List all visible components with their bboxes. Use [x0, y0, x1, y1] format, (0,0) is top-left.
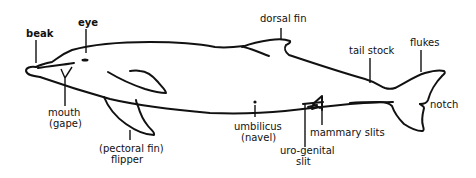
label-flukes: flukes — [410, 37, 439, 48]
label-uro-genital: uro-genital — [280, 145, 335, 156]
label-dorsal-fin: dorsal fin — [260, 13, 307, 24]
dolphin-belly-outline — [40, 77, 393, 113]
label-pectoral-fin: (pectoral fin) — [99, 143, 164, 154]
label-mammary-slits: mammary slits — [310, 127, 385, 138]
label-navel: (navel) — [241, 132, 276, 143]
label-tail-stock: tail stock — [349, 45, 395, 56]
dolphin-umbilicus-mark — [253, 100, 256, 103]
dolphin-flipper-outline-body — [108, 71, 166, 93]
label-mouth-gape: (gape) — [49, 118, 82, 129]
label-beak: beak — [26, 28, 54, 39]
dolphin-fluke-notch — [420, 104, 424, 131]
label-notch: notch — [430, 99, 458, 110]
label-umbilicus: umbilicus — [234, 121, 282, 132]
label-flipper: flipper — [111, 154, 144, 165]
label-mouth: mouth — [48, 107, 80, 118]
dolphin-dorsal-fin-trailing-line — [244, 47, 269, 56]
dolphin-eye — [82, 59, 89, 62]
label-slit: slit — [296, 156, 311, 167]
label-eye: eye — [78, 17, 98, 28]
dolphin-anatomy-diagram: beak eye mouth (gape) (pectoral fin) fli… — [0, 0, 476, 178]
